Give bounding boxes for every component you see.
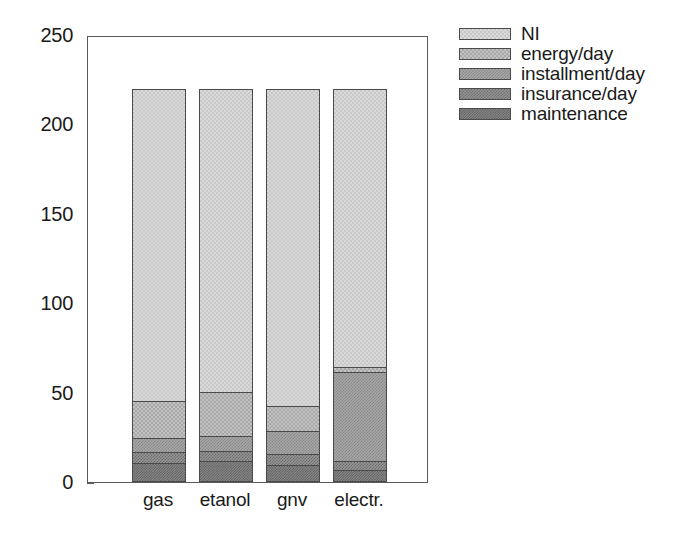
legend-swatch-energy-day [459, 48, 511, 60]
legend-item-installment-day: installment/day [459, 64, 679, 84]
y-axis-tick-label: 50 [51, 382, 73, 404]
bar-electr- [333, 90, 387, 482]
y-axis-tick-label: 250 [41, 24, 73, 46]
legend-swatch-maintenance [459, 108, 511, 120]
bar-segment-insurance-day [132, 452, 186, 464]
legend-item-energy-day: energy/day [459, 44, 679, 64]
x-axis-label-electr-: electr. [309, 489, 409, 511]
bar-segment-installment-day [333, 372, 387, 462]
bar-etanol [199, 90, 253, 482]
y-axis-tick-label: 200 [41, 113, 73, 135]
bar-segment-installment-day [199, 436, 253, 451]
legend-swatch-insurance-day [459, 88, 511, 100]
y-axis-tick-label: 0 [62, 471, 73, 493]
legend-label: maintenance [521, 103, 628, 125]
bar-segment-energy-day [132, 401, 186, 440]
bar-segment-maintenance [266, 465, 320, 482]
y-axis-tick: 200 [0, 125, 87, 126]
legend-label: energy/day [521, 43, 613, 65]
legend-item-insurance-day: insurance/day [459, 84, 679, 104]
bar-segment-insurance-day [333, 461, 387, 471]
legend-item-maintenance: maintenance [459, 104, 679, 124]
bar-segment-ni [199, 89, 253, 392]
bar-segment-maintenance [132, 463, 186, 482]
bar-segment-installment-day [266, 431, 320, 455]
legend-item-ni: NI [459, 24, 679, 44]
bar-segment-maintenance [199, 461, 253, 482]
legend-label: installment/day [521, 63, 645, 85]
bar-segment-insurance-day [266, 454, 320, 466]
legend-label: insurance/day [521, 83, 637, 105]
bar-segment-installment-day [132, 438, 186, 453]
y-axis-tick-label: 100 [41, 292, 73, 314]
y-axis-tick-mark [87, 483, 94, 484]
bar-segment-ni [266, 89, 320, 406]
y-axis-tick: 250 [0, 36, 87, 37]
y-axis-tick-label: 150 [41, 203, 73, 225]
legend-label: NI [521, 23, 540, 45]
bar-segment-energy-day [199, 392, 253, 438]
bar-gnv [266, 90, 320, 482]
stacked-bar-chart-figure: 250200150100500 gasetanolgnvelectr. NIen… [0, 0, 686, 540]
y-axis-tick: 0 [0, 483, 87, 484]
bar-segment-ni [132, 89, 186, 401]
bar-gas [132, 90, 186, 482]
legend-swatch-installment-day [459, 68, 511, 80]
chart-legend: NIenergy/dayinstallment/dayinsurance/day… [459, 24, 679, 124]
y-axis-tick: 100 [0, 304, 87, 305]
y-axis-tick: 50 [0, 394, 87, 395]
bar-segment-energy-day [266, 406, 320, 432]
bar-segment-insurance-day [199, 451, 253, 463]
bar-segment-ni [333, 89, 387, 367]
legend-swatch-ni [459, 28, 511, 40]
y-axis-tick: 150 [0, 215, 87, 216]
plot-area [87, 36, 428, 483]
bar-segment-maintenance [333, 470, 387, 482]
